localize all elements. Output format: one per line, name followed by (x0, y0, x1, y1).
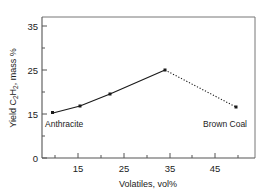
x-axis-title: Volatiles, vol% (119, 179, 177, 189)
x-tick-label-45: 45 (210, 163, 221, 174)
data-point (51, 111, 54, 114)
data-point (235, 106, 238, 109)
x-tick-label-25: 25 (119, 163, 130, 174)
y-tick-label-15: 15 (27, 109, 38, 120)
y-tick-label-25: 25 (27, 65, 38, 76)
chart-background (0, 0, 270, 195)
data-point (79, 105, 82, 108)
y-axis-title-tail: , mass % (8, 48, 18, 85)
y-axis-title-lead: Yield C (8, 99, 18, 128)
yield-vs-volatiles-chart: 35 25 15 0 15 25 35 45 Volatiles, vol% Y… (0, 0, 270, 195)
y-tick-label-35: 35 (27, 21, 38, 32)
data-point (164, 69, 167, 72)
annotation-anthracite: Anthracite (45, 119, 84, 129)
x-tick-label-35: 35 (165, 163, 176, 174)
annotation-brown-coal: Brown Coal (203, 119, 247, 129)
y-tick-label-0: 0 (33, 153, 38, 164)
data-point (109, 93, 112, 96)
x-tick-label-15: 15 (73, 163, 84, 174)
